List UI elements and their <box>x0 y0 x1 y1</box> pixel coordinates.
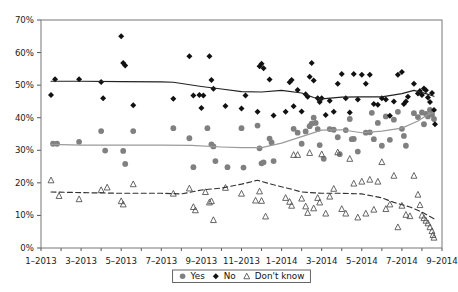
legend-label-don-t-know: Don't know <box>255 271 305 281</box>
data-point-circle <box>313 120 319 126</box>
data-point-circle <box>102 148 108 154</box>
y-axis-tick-label: 0% <box>20 243 34 253</box>
data-point-circle <box>387 137 393 143</box>
data-point-circle <box>431 116 437 122</box>
x-axis-tick-label: 1–2013 <box>25 256 57 266</box>
data-point-circle <box>351 136 357 142</box>
data-point-circle <box>335 134 341 140</box>
x-axis-tick-label: 9–2014 <box>426 256 458 266</box>
data-point-circle <box>225 164 231 170</box>
x-axis-tick-label: 5–2013 <box>105 256 137 266</box>
data-point-circle <box>395 109 401 115</box>
legend-marker-circle <box>180 273 186 279</box>
data-point-circle <box>375 120 381 126</box>
data-point-circle <box>403 143 409 149</box>
data-point-circle <box>355 149 361 155</box>
data-point-circle <box>257 145 263 151</box>
y-axis-tick-label: 40% <box>15 113 34 123</box>
data-point-circle <box>76 139 82 145</box>
plot-background <box>41 20 442 248</box>
x-axis-tick-label: 11–2013 <box>223 256 260 266</box>
data-point-circle <box>98 128 104 134</box>
chart-container: 0%10%20%30%40%50%60%70%1–20133–20135–201… <box>0 0 458 292</box>
data-point-circle <box>299 141 305 147</box>
data-point-circle <box>379 143 385 149</box>
data-point-circle <box>347 116 353 122</box>
data-point-circle <box>186 135 192 141</box>
x-axis-tick-label: 7–2014 <box>386 256 418 266</box>
data-point-circle <box>401 133 407 139</box>
data-point-circle <box>261 159 267 165</box>
data-point-circle <box>122 161 128 167</box>
data-point-circle <box>295 130 301 136</box>
x-axis-tick-label: 3–2014 <box>306 256 338 266</box>
y-axis-tick-label: 70% <box>15 15 34 25</box>
x-axis-tick-label: 9–2013 <box>186 256 218 266</box>
poll-scatter-chart: 0%10%20%30%40%50%60%70%1–20133–20135–201… <box>0 0 458 292</box>
legend-label-no: No <box>224 271 236 281</box>
x-axis-tick-label: 5–2014 <box>346 256 378 266</box>
data-point-circle <box>371 136 377 142</box>
data-point-circle <box>369 110 375 116</box>
data-point-circle <box>120 148 126 154</box>
data-point-circle <box>190 164 196 170</box>
y-axis-tick-label: 20% <box>15 178 34 188</box>
data-point-circle <box>170 125 176 131</box>
x-axis-tick-label: 7–2013 <box>145 256 177 266</box>
data-point-circle <box>271 158 277 164</box>
x-axis-tick-label: 1–2014 <box>266 256 298 266</box>
legend-label-yes: Yes <box>190 271 206 281</box>
data-point-circle <box>391 117 397 123</box>
y-axis-tick-label: 50% <box>15 80 34 90</box>
y-axis-tick-label: 60% <box>15 48 34 58</box>
data-point-circle <box>311 115 317 121</box>
x-axis-tick-label: 3–2013 <box>65 256 97 266</box>
data-point-circle <box>317 142 323 148</box>
data-point-circle <box>241 165 247 171</box>
y-axis-tick-label: 10% <box>15 210 34 220</box>
data-point-circle <box>239 125 245 131</box>
y-axis-tick-label: 30% <box>15 145 34 155</box>
data-point-circle <box>130 128 136 134</box>
data-point-circle <box>421 121 427 127</box>
data-point-circle <box>54 141 60 147</box>
data-point-circle <box>205 125 211 131</box>
data-point-circle <box>255 123 261 129</box>
data-point-circle <box>303 128 309 134</box>
data-point-circle <box>213 158 219 164</box>
